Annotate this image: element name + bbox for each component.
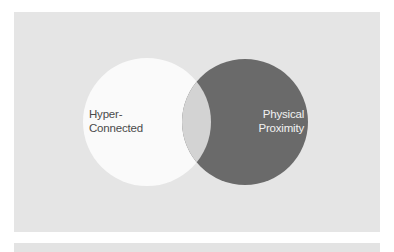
hyper-connected-label: Hyper- Connected [89,107,143,135]
physical-proximity-label: Physical Proximity [240,107,304,135]
next-panel-edge [14,243,380,252]
physical-proximity-label-line1: Physical [240,107,304,121]
venn-diagram [0,0,394,252]
hyper-connected-label-line2: Connected [89,121,143,135]
hyper-connected-label-line1: Hyper- [89,107,143,121]
physical-proximity-label-line2: Proximity [240,121,304,135]
